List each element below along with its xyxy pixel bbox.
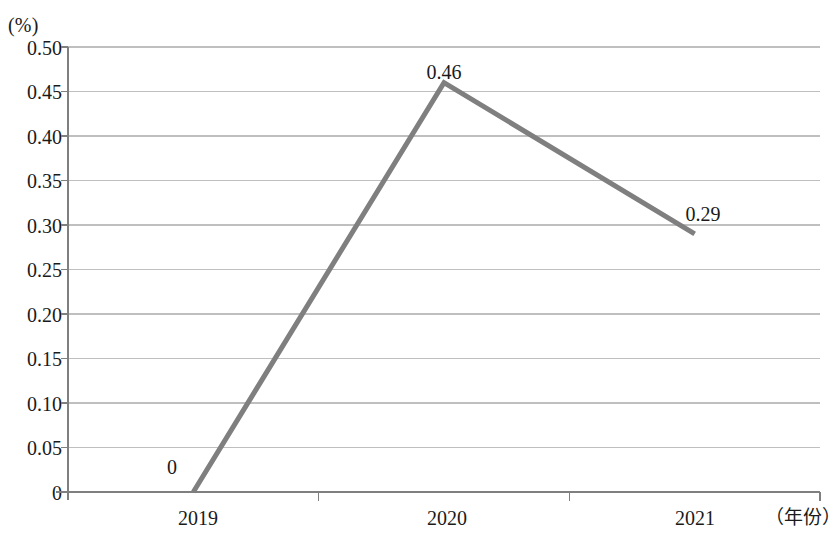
data-series-line bbox=[193, 83, 694, 492]
series-polyline bbox=[193, 83, 694, 492]
axis-ticks bbox=[61, 47, 820, 501]
gridlines bbox=[68, 47, 820, 492]
axis-lines bbox=[56, 47, 820, 500]
